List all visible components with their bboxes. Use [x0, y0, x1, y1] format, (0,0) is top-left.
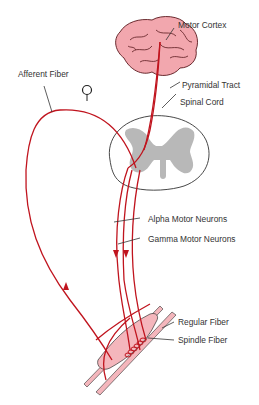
label-afferent-fiber: Afferent Fiber	[18, 69, 69, 79]
label-spindle-fiber: Spindle Fiber	[178, 335, 228, 345]
ganglion-icon	[83, 86, 92, 95]
gamma-motor-path	[132, 170, 146, 340]
label-alpha-motor-neurons: Alpha Motor Neurons	[148, 214, 227, 224]
label-gamma-motor-neurons: Gamma Motor Neurons	[148, 234, 236, 244]
muscle-illustration	[84, 306, 176, 395]
reflex-diagram: Motor Cortex Afferent Fiber Pyramidal Tr…	[0, 0, 259, 405]
down-arrow-icon	[113, 250, 119, 258]
label-regular-fiber: Regular Fiber	[178, 317, 229, 327]
label-pyramidal-tract: Pyramidal Tract	[182, 80, 241, 90]
up-arrow-icon	[63, 282, 69, 290]
label-motor-cortex: Motor Cortex	[178, 20, 227, 30]
label-spinal-cord: Spinal Cord	[180, 97, 224, 107]
